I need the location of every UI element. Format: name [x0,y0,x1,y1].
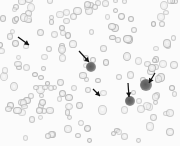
arrow-icon [79,51,89,62]
arrow-icon [18,37,29,45]
arrow-icon [126,83,131,97]
arrow-overlay [0,0,180,146]
arrow-icon [149,73,155,83]
microscopy-image [0,0,180,146]
arrow-icon [93,89,100,96]
